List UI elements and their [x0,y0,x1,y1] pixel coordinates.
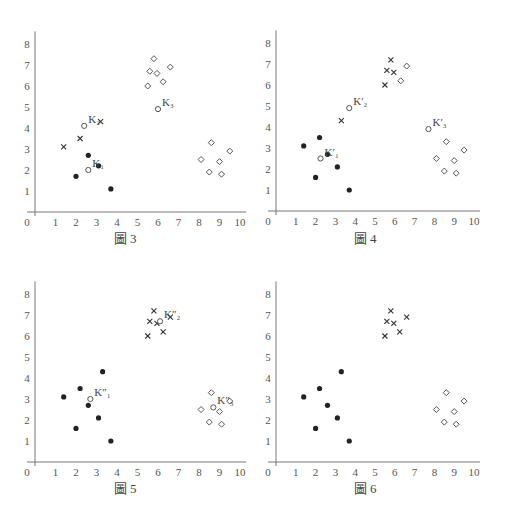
scatter-plot: 01234567891012345678 [250,260,507,515]
diamond-point [451,409,457,415]
diamond-point [145,83,151,89]
y-tick-label: 2 [265,414,271,426]
centroid-point [426,127,431,132]
x-tick-label: 2 [313,215,319,227]
centroid-point [82,123,87,128]
x-tick-label: 5 [372,215,378,227]
diamond-point [453,170,459,176]
diamond-point [451,158,457,164]
y-tick-label: 3 [265,142,271,154]
x-tick-label: 10 [469,215,481,227]
x-tick-label: 4 [352,466,358,478]
y-tick-label: 7 [24,309,30,321]
dot-point [325,403,330,408]
dot-point [100,369,105,374]
figure-caption: 圖 5 [0,478,250,497]
dot-point [347,187,352,192]
chart-fig6: 01234567891012345678 圖 6 [250,260,500,515]
y-tick-label: 7 [265,309,271,321]
x-tick-label: 3 [94,466,100,478]
scatter-plot: 01234567891012345678K″₁K″₂K″₃ [0,260,250,515]
x-tick-label: 3 [333,466,339,478]
chart-fig4: 01234567891012345678K′₁K′₂K′₃ 圖 4 [250,0,500,255]
y-tick-label: 2 [24,414,30,426]
dot-point [96,415,101,420]
x-tick-label: 6 [155,216,161,228]
dot-point [61,394,66,399]
diamond-point [206,419,212,425]
x-tick-label: 10 [235,466,247,478]
y-tick-label: 5 [265,351,271,363]
x-tick-label: 3 [94,216,100,228]
dot-point [73,426,78,431]
diamond-point [433,407,439,413]
y-tick-label: 4 [265,121,271,133]
centroid-label: K₃ [162,96,174,108]
diamond-point [147,68,153,74]
dot-point [86,153,91,158]
cross-point [161,329,166,334]
y-tick-label: 3 [265,393,271,405]
y-tick-label: 3 [24,143,30,155]
centroid-point [157,319,162,324]
x-tick-label: 1 [293,215,299,227]
dot-point [78,386,83,391]
x-tick-label: 2 [73,216,79,228]
x-tick-label: 4 [352,215,358,227]
dot-point [313,175,318,180]
diamond-point [227,148,233,154]
cross-point [147,319,152,324]
x-tick-label: 7 [176,216,182,228]
y-tick-label: 1 [24,435,30,447]
cross-point [382,334,387,339]
diamond-point [443,139,449,145]
dot-point [301,394,306,399]
dot-point [347,438,352,443]
x-tick-label: 4 [114,466,120,478]
y-tick-label: 8 [265,288,271,300]
x-tick-label: 9 [451,466,457,478]
y-tick-label: 2 [265,163,271,175]
x-tick-label: 8 [432,466,438,478]
y-tick-label: 3 [24,393,30,405]
x-tick-label: 8 [432,215,438,227]
x-tick-label: 7 [412,466,418,478]
y-tick-label: 6 [265,330,271,342]
diamond-point [208,390,214,396]
dot-point [108,186,113,191]
figure-caption: 圖 4 [240,228,490,247]
dot-point [301,143,306,148]
x-tick-label: 8 [196,216,202,228]
figure-caption: 圖 3 [0,228,250,247]
cross-point [384,319,389,324]
y-tick-label: 4 [24,122,30,134]
y-tick-label: 1 [24,185,30,197]
scatter-plot: 01234567891012345678K′₁K′₂K′₃ [250,0,507,255]
diamond-point [461,147,467,153]
diamond-point [219,421,225,427]
cross-point [397,329,402,334]
centroid-label: K₁ [92,157,104,169]
x-tick-label: 1 [53,466,59,478]
diamond-point [151,56,157,62]
x-tick-label: 5 [135,216,141,228]
y-tick-label: 8 [24,288,30,300]
dot-point [313,426,318,431]
cross-point [388,57,393,62]
x-tick-label: 3 [333,215,339,227]
x-tick-label: 5 [135,466,141,478]
x-tick-label: 10 [235,216,247,228]
diamond-point [167,64,173,70]
diamond-point [461,398,467,404]
y-tick-label: 1 [265,184,271,196]
diamond-point [160,79,166,85]
x-tick-label: 0 [24,466,30,478]
diamond-point [443,390,449,396]
dot-point [86,403,91,408]
cross-point [391,70,396,75]
dot-point [73,174,78,179]
y-tick-label: 7 [265,58,271,70]
scatter-plot: 01234567891012345678K₁K₂K₃ [0,0,250,255]
diamond-point [398,78,404,84]
diamond-point [441,419,447,425]
